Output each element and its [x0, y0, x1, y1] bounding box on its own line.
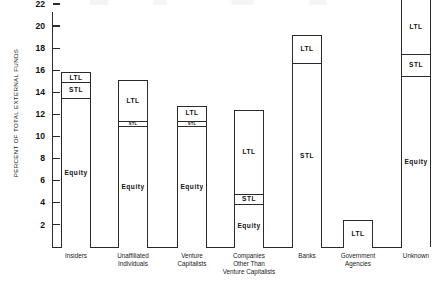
bar-segment-label: LTL	[126, 98, 139, 105]
y-axis-tick-label: 20	[21, 22, 45, 31]
bar-venture-capitalists[interactable]: LTLSTLEquity	[177, 106, 207, 247]
y-axis-tick-label: 22	[21, 0, 45, 8]
bar-segment-ltl[interactable]: LTL	[62, 73, 90, 82]
bar-unknown[interactable]: LTLSTLEquity	[401, 0, 431, 247]
bar-segment-label: STL	[409, 62, 423, 69]
y-axis-tick	[53, 25, 60, 26]
x-axis-label-line: Agencies	[316, 260, 400, 268]
y-axis-tick	[53, 180, 60, 181]
y-axis-tick	[53, 70, 60, 71]
bar-segment-ltl[interactable]: LTL	[235, 111, 263, 194]
y-axis-tick	[53, 48, 60, 49]
y-axis-tick-label: 2	[21, 221, 45, 230]
x-axis-label-line: Other Than	[207, 260, 291, 268]
bar-segment-label: Equity	[180, 184, 203, 191]
bar-segment-label: STL	[69, 87, 83, 94]
bar-banks[interactable]: LTLSTL	[292, 35, 322, 247]
y-axis-tick	[53, 92, 60, 93]
bar-segment-label: Equity	[237, 223, 260, 230]
bar-segment-label: LTL	[69, 75, 82, 82]
y-axis-tick	[53, 158, 60, 159]
bar-segment-ltl[interactable]: LTL	[402, 0, 430, 53]
bar-segment-label: Equity	[64, 170, 87, 177]
page-top-artifact	[90, 0, 370, 5]
y-axis-tick-label: 16	[21, 66, 45, 75]
y-axis-tick-label: 8	[21, 154, 45, 163]
bar-segment-label: LTL	[242, 149, 255, 156]
bar-segment-equity[interactable]: Equity	[119, 126, 147, 248]
bar-segment-equity[interactable]: Equity	[62, 98, 90, 248]
bar-segment-stl[interactable]: STL	[402, 54, 430, 76]
bar-segment-equity[interactable]: Equity	[178, 126, 206, 248]
bar-segment-label: Equity	[404, 159, 427, 166]
y-axis-tick-label: 18	[21, 44, 45, 53]
bar-segment-ltl[interactable]: LTL	[119, 81, 147, 121]
bar-segment-ltl[interactable]: LTL	[293, 36, 321, 64]
bar-segment-equity[interactable]: Equity	[402, 76, 430, 248]
x-axis-label-unknown: Unknown	[374, 252, 435, 260]
y-axis-tick	[53, 202, 60, 203]
y-axis-tick	[53, 114, 60, 115]
y-axis-tick	[53, 3, 60, 4]
bar-segment-ltl[interactable]: LTL	[178, 107, 206, 121]
bar-segment-stl[interactable]: STL	[62, 82, 90, 97]
bar-segment-stl[interactable]: STL	[235, 194, 263, 204]
bar-segment-label: STL	[300, 153, 314, 160]
plot-area: 246810121416182022 LTLSTLEquityLTLSTLEqu…	[52, 12, 410, 248]
y-axis-tick-label: 6	[21, 176, 45, 185]
bar-government-agencies[interactable]: LTL	[343, 220, 373, 247]
bar-segment-label: LTL	[351, 231, 364, 238]
y-axis-tick	[53, 224, 60, 225]
bar-segment-label: Equity	[121, 184, 144, 191]
y-axis-tick-label: 4	[21, 198, 45, 207]
bar-segment-stl[interactable]: STL	[293, 63, 321, 248]
bar-segment-label: LTL	[185, 110, 198, 117]
bar-segment-label: LTL	[409, 24, 422, 31]
bar-segment-equity[interactable]: Equity	[235, 204, 263, 248]
x-axis-label-line: Venture Capitalists	[207, 268, 291, 276]
bar-segment-label: LTL	[300, 46, 313, 53]
bar-segment-ltl[interactable]: LTL	[344, 221, 372, 248]
y-axis-tick-label: 12	[21, 110, 45, 119]
y-axis-tick	[53, 136, 60, 137]
y-axis-tick-label: 10	[21, 132, 45, 141]
bar-unaffiliated-individuals[interactable]: LTLSTLEquity	[118, 80, 148, 247]
x-axis-label-line: Unknown	[374, 252, 435, 260]
bar-insiders[interactable]: LTLSTLEquity	[61, 72, 91, 247]
y-axis-tick-label: 14	[21, 88, 45, 97]
bar-companies-other-than-venture-capitalists[interactable]: LTLSTLEquity	[234, 110, 264, 247]
bar-segment-label: STL	[242, 196, 256, 203]
